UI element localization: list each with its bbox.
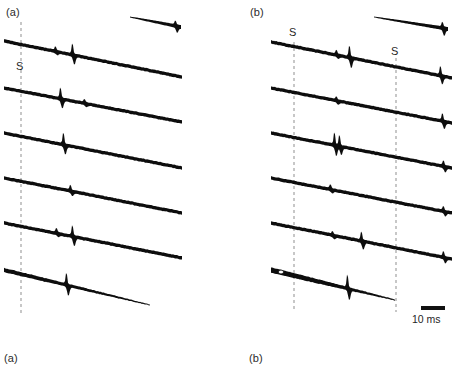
sweep-trace-a-6	[4, 268, 150, 306]
sweep-trace-a-1	[4, 39, 182, 79]
sweep-trace-b-5	[271, 221, 452, 263]
sweep-trace-a-4	[4, 176, 182, 215]
sweep-trace-a-5	[4, 221, 182, 259]
figure-canvas: (a) (b) (a) (b) S S S 10 ms	[0, 0, 457, 374]
sweep-trace-a-2	[4, 86, 182, 123]
partial-sweep-trace-b	[374, 17, 448, 36]
sweep-trace-b-4	[271, 176, 452, 216]
recording-traces	[0, 0, 457, 374]
sweep-start-marker-b	[278, 270, 283, 274]
partial-sweep-trace-a	[130, 17, 181, 33]
sweep-trace-b-6	[271, 267, 395, 300]
sweep-trace-b-1	[271, 40, 452, 84]
sweep-trace-b-2	[271, 86, 452, 129]
sweep-trace-b-3	[271, 131, 452, 172]
sweep-trace-a-3	[4, 131, 182, 170]
